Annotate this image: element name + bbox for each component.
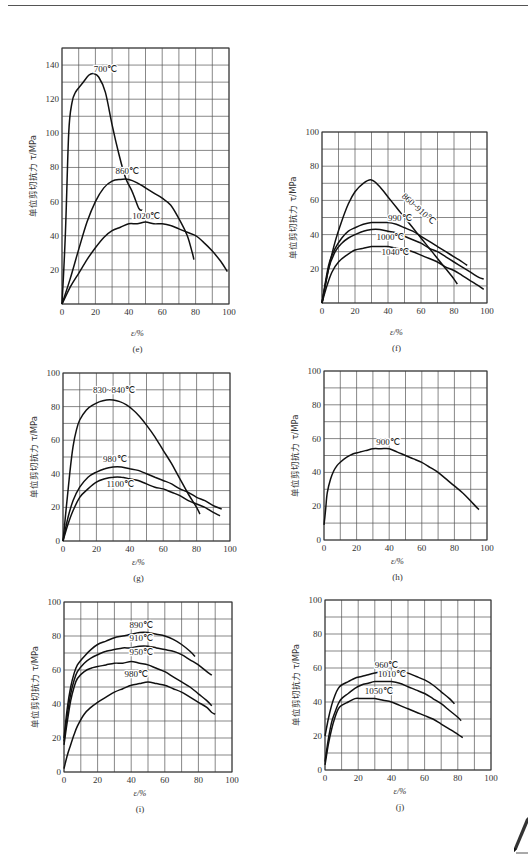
y-tick-labels: 020406080100 xyxy=(308,366,322,545)
y-axis-label: 单位剪切抗力 τ/MPa xyxy=(288,177,298,259)
series-label: 1040℃ xyxy=(381,247,409,257)
y-tick-label: 20 xyxy=(313,731,323,741)
series: 980℃980℃ xyxy=(63,454,222,541)
series-label: 1050℃ xyxy=(365,686,393,696)
chart-caption: (j) xyxy=(396,802,405,812)
y-tick-label: 80 xyxy=(52,631,62,641)
series-label: 1000℃ xyxy=(376,232,404,242)
y-axis-label: 单位剪切抗力 τ/MPa xyxy=(29,416,39,498)
series-label: 1010℃ xyxy=(378,669,406,679)
y-tick-label: 80 xyxy=(50,162,60,172)
y-tick-label: 20 xyxy=(50,265,60,275)
x-tick-label: 80 xyxy=(453,773,463,783)
x-axis-label: ε/% xyxy=(134,788,147,798)
x-axis-label: ε/% xyxy=(132,557,145,567)
series: 980℃980℃ xyxy=(64,669,215,769)
x-tick-label: 60 xyxy=(417,306,427,316)
x-tick-label: 40 xyxy=(125,544,135,554)
x-tick-label: 40 xyxy=(385,543,395,553)
x-tick-label: 100 xyxy=(225,775,239,785)
x-tick-label: 0 xyxy=(62,775,67,785)
series-label: 990℃ xyxy=(388,213,412,223)
x-tick-label: 0 xyxy=(323,773,328,783)
grid xyxy=(325,600,491,770)
y-axis-label: 单位剪切抗力 τ/MPa xyxy=(28,135,38,217)
y-tick-label: 20 xyxy=(51,502,61,512)
y-tick-label: 40 xyxy=(312,467,322,477)
chart-j: 020406080100020406080100单位剪切抗力 τ/MPaε/%(… xyxy=(291,595,498,812)
series-line xyxy=(325,681,461,761)
y-tick-label: 0 xyxy=(57,767,62,777)
x-tick-label: 0 xyxy=(322,543,327,553)
pen-icon xyxy=(512,815,528,855)
series-line xyxy=(325,698,463,765)
series: 830~840℃830~840℃ xyxy=(63,385,200,541)
y-tick-label: 60 xyxy=(313,663,323,673)
x-tick-label: 60 xyxy=(160,775,170,785)
x-tick-labels: 020406080100 xyxy=(323,773,499,783)
y-tick-label: 100 xyxy=(309,595,323,605)
series-label: 1020℃ xyxy=(132,211,160,221)
x-tick-label: 80 xyxy=(192,544,202,554)
y-tick-label: 40 xyxy=(51,469,61,479)
series: 860℃860℃ xyxy=(62,166,194,304)
y-tick-label: 80 xyxy=(313,629,323,639)
chart-panel-grid: 02040608010020406080100120140单位剪切抗力 τ/MP… xyxy=(0,0,528,855)
grid xyxy=(62,48,229,304)
x-tick-label: 80 xyxy=(194,775,204,785)
y-axis-label: 单位剪切抗力 τ/MPa xyxy=(290,415,300,497)
series-line xyxy=(62,222,227,304)
chart-i: 020406080100020406080100单位剪切抗力 τ/MPaε/%(… xyxy=(30,597,239,814)
x-tick-label: 40 xyxy=(127,775,137,785)
y-tick-label: 0 xyxy=(318,765,323,775)
chart-caption: (f) xyxy=(392,343,401,353)
x-tick-label: 20 xyxy=(351,306,361,316)
y-tick-labels: 20406080100 xyxy=(306,127,320,274)
x-tick-label: 40 xyxy=(124,307,134,317)
grid xyxy=(63,373,230,541)
chart-e: 02040608010020406080100120140单位剪切抗力 τ/MP… xyxy=(28,48,236,354)
y-tick-label: 20 xyxy=(310,264,320,274)
y-tick-label: 140 xyxy=(46,60,60,70)
y-tick-labels: 020406080100 xyxy=(309,595,323,775)
x-tick-label: 60 xyxy=(159,544,169,554)
series-label: 900℃ xyxy=(376,437,400,447)
x-tick-label: 100 xyxy=(223,544,237,554)
series-label: 1100℃ xyxy=(106,479,134,489)
series-label: 830~840℃ xyxy=(93,385,135,395)
x-tick-label: 0 xyxy=(60,307,65,317)
series-line xyxy=(324,448,479,524)
x-tick-label: 20 xyxy=(91,307,101,317)
y-tick-label: 40 xyxy=(52,699,62,709)
x-tick-label: 0 xyxy=(61,544,66,554)
x-tick-label: 60 xyxy=(417,543,427,553)
y-axis-label: 单位剪切抗力 τ/MPa xyxy=(291,644,301,726)
x-tick-label: 100 xyxy=(480,306,494,316)
y-tick-label: 100 xyxy=(306,127,320,137)
y-tick-label: 0 xyxy=(317,535,322,545)
x-tick-labels: 020406080100 xyxy=(61,544,238,554)
y-axis-label: 单位剪切抗力 τ/MPa xyxy=(30,646,40,728)
chart-caption: (h) xyxy=(392,572,403,582)
y-tick-label: 80 xyxy=(310,161,320,171)
x-tick-label: 20 xyxy=(93,775,103,785)
series-label: 700℃ xyxy=(94,64,118,74)
y-tick-label: 0 xyxy=(56,536,61,546)
series-line xyxy=(63,400,200,541)
chart-f: 02040608010020406080100单位剪切抗力 τ/MPaε/%(f… xyxy=(288,127,494,353)
x-tick-label: 80 xyxy=(450,543,460,553)
series-label: 980℃ xyxy=(103,454,127,464)
y-tick-label: 120 xyxy=(46,94,60,104)
x-tick-label: 80 xyxy=(450,306,460,316)
x-tick-label: 100 xyxy=(222,307,236,317)
x-tick-label: 60 xyxy=(420,773,430,783)
y-tick-label: 40 xyxy=(310,230,320,240)
y-tick-label: 20 xyxy=(52,733,62,743)
x-tick-labels: 020406080100 xyxy=(60,307,237,317)
series: 900℃900℃ xyxy=(324,437,479,524)
y-tick-label: 20 xyxy=(312,501,322,511)
y-tick-labels: 020406080100 xyxy=(48,597,62,777)
series: 1040℃1040℃ xyxy=(322,246,484,303)
series-line xyxy=(64,682,215,769)
y-tick-label: 100 xyxy=(47,368,61,378)
